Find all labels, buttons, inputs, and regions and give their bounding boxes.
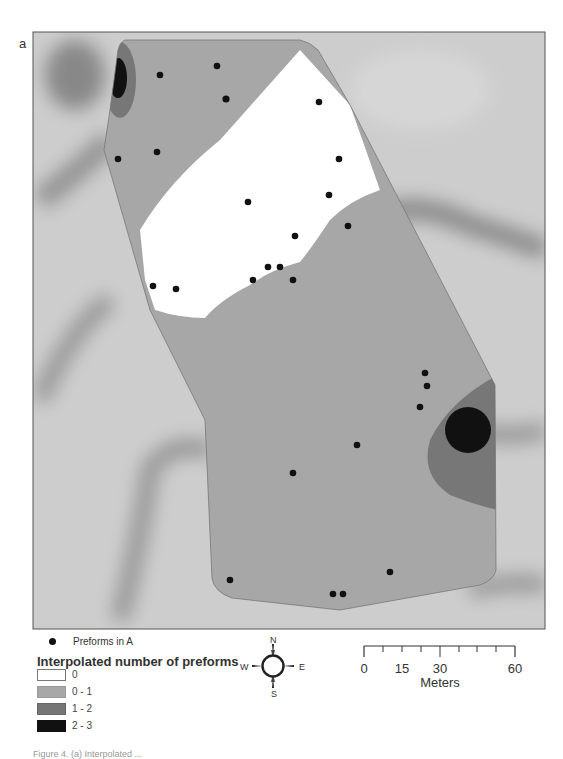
preform-point	[265, 264, 272, 271]
scale-bar-ruler	[360, 640, 530, 660]
swatch-icon	[37, 686, 66, 698]
preform-point	[422, 370, 429, 377]
preform-point	[250, 277, 257, 284]
swatch-icon	[37, 669, 66, 681]
compass-icon	[243, 636, 303, 696]
preform-point	[173, 286, 180, 293]
south-label: S	[271, 689, 277, 699]
map-frame	[0, 0, 563, 640]
scale-units-label: Meters	[420, 675, 460, 690]
west-label: W	[240, 662, 249, 672]
preform-point	[150, 283, 157, 290]
north-label: N	[270, 635, 277, 645]
swatch-icon	[37, 720, 66, 732]
preform-point	[326, 192, 333, 199]
scale-tick-label: 30	[433, 661, 447, 676]
scale-tick-label: 0	[360, 661, 367, 676]
preform-point	[245, 199, 252, 206]
point-symbol-icon	[49, 638, 56, 645]
preform-point	[227, 577, 234, 584]
swatch-icon	[37, 703, 66, 715]
legend-class-label: 2 - 3	[72, 720, 92, 731]
legend-point-label: Preforms in A	[73, 636, 133, 647]
figure-caption: Figure 4. (a) Interpolated ...	[33, 749, 142, 759]
preform-point	[336, 156, 343, 163]
preform-point	[330, 591, 337, 598]
preform-point	[340, 591, 347, 598]
class-2-3-zone-east	[445, 407, 491, 453]
legend-class-label: 0	[72, 669, 78, 680]
preform-point	[290, 470, 297, 477]
scale-tick-label: 60	[508, 661, 522, 676]
preform-point	[316, 99, 323, 106]
preform-point	[292, 233, 299, 240]
preform-point	[417, 404, 424, 411]
preform-point	[157, 72, 164, 79]
preform-point	[115, 156, 122, 163]
preform-point	[214, 63, 221, 70]
preform-point	[222, 95, 229, 102]
preform-point	[290, 277, 297, 284]
legend-class-label: 0 - 1	[72, 686, 92, 697]
preform-point	[154, 149, 161, 156]
legend-class-label: 1 - 2	[72, 703, 92, 714]
preform-point	[387, 569, 394, 576]
scale-tick-label: 15	[395, 661, 409, 676]
preform-point	[354, 442, 361, 449]
preform-point	[345, 223, 352, 230]
east-label: E	[299, 662, 305, 672]
preform-point	[277, 264, 284, 271]
legend-title: Interpolated number of preforms	[37, 654, 239, 669]
preform-point	[424, 383, 431, 390]
